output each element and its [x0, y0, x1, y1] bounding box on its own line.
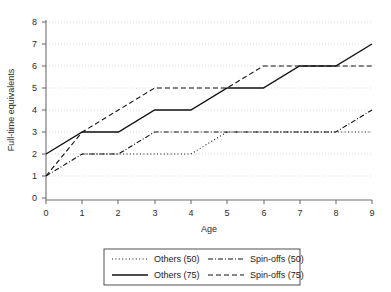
x-tick-label-0: 0 [43, 208, 48, 218]
x-tick-label-1: 1 [79, 208, 84, 218]
x-tick-label-5: 5 [224, 208, 229, 218]
x-tick-label-6: 6 [261, 208, 266, 218]
legend-label-others-50: Others (50) [154, 254, 200, 264]
y-tick-label-2: 2 [32, 149, 37, 159]
y-tick-labels: 8 7 6 5 4 3 2 1 0 [32, 17, 37, 203]
x-axis-title: Age [201, 224, 217, 234]
x-tick-label-9: 9 [369, 208, 374, 218]
legend-label-spinoffs-75: Spin-offs (75) [250, 270, 304, 280]
y-tick-label-0: 0 [32, 193, 37, 203]
x-tick-label-4: 4 [188, 208, 193, 218]
chart-figure: 8 7 6 5 4 3 2 1 0 0 1 2 3 4 5 6 7 8 9 Ag… [0, 0, 391, 292]
y-axis-title: Full-time equivalents [6, 68, 16, 151]
y-tick-label-6: 6 [32, 61, 37, 71]
y-tick-label-7: 7 [32, 39, 37, 49]
legend-label-others-75: Others (75) [154, 270, 200, 280]
x-tick-label-2: 2 [115, 208, 120, 218]
x-tick-label-7: 7 [297, 208, 302, 218]
x-tick-label-8: 8 [333, 208, 338, 218]
y-tick-label-1: 1 [32, 171, 37, 181]
y-tick-label-3: 3 [32, 127, 37, 137]
legend-label-spinoffs-50: Spin-offs (50) [250, 254, 304, 264]
y-tick-label-5: 5 [32, 83, 37, 93]
x-tick-label-3: 3 [152, 208, 157, 218]
y-tick-label-4: 4 [32, 105, 37, 115]
y-tick-label-8: 8 [32, 17, 37, 27]
